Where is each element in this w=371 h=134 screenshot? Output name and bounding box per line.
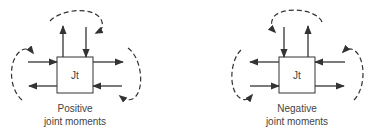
moment-arc-left — [12, 49, 34, 100]
caption-line-2: joint moments — [265, 116, 328, 127]
joint-label: Jt — [293, 70, 301, 81]
joint-label: Jt — [71, 70, 79, 81]
joint-moments-figure: Jt Positive joint moments Jt Nega — [0, 0, 371, 134]
moment-arc-right — [343, 49, 363, 100]
caption-line-1: Negative — [277, 103, 317, 114]
positive-diagram: Jt Positive joint moments — [12, 11, 141, 127]
negative-diagram: Jt Negative joint moments — [232, 10, 363, 127]
moment-arc-left — [232, 50, 252, 100]
moment-arc-right — [120, 48, 141, 100]
caption-line-2: joint moments — [43, 116, 106, 127]
caption-line-1: Positive — [57, 103, 92, 114]
moment-arc-top — [272, 10, 322, 32]
moment-arc-top — [50, 11, 103, 33]
